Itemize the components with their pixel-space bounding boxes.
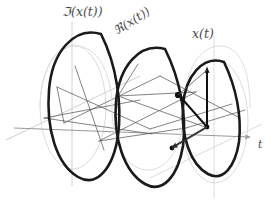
- real-axis-line-right: [150, 124, 262, 178]
- figure-canvas: ℑ(x(t)) ℜ(x(t)) x(t) t: [0, 0, 273, 203]
- helix-loop-3: [183, 61, 240, 177]
- imaginary-axis-label: ℑ(x(t)): [62, 6, 103, 19]
- time-axis-group: [14, 128, 250, 137]
- helix-loop-2: [116, 48, 185, 187]
- reference-axes: [6, 22, 262, 198]
- helix-diagram: [0, 0, 273, 203]
- time-axis-line: [14, 128, 250, 137]
- time-axis-label: t: [258, 139, 262, 150]
- cylinder-outline: [40, 45, 248, 183]
- projection-chord-11: [160, 76, 240, 118]
- triangle-edge-lower: [172, 127, 207, 148]
- projection-chord-2: [57, 87, 64, 123]
- helix-loop-1: [48, 33, 119, 180]
- signal-label: x(t): [192, 28, 214, 41]
- projection-chord-13: [75, 66, 104, 150]
- helix-curve: [48, 33, 239, 187]
